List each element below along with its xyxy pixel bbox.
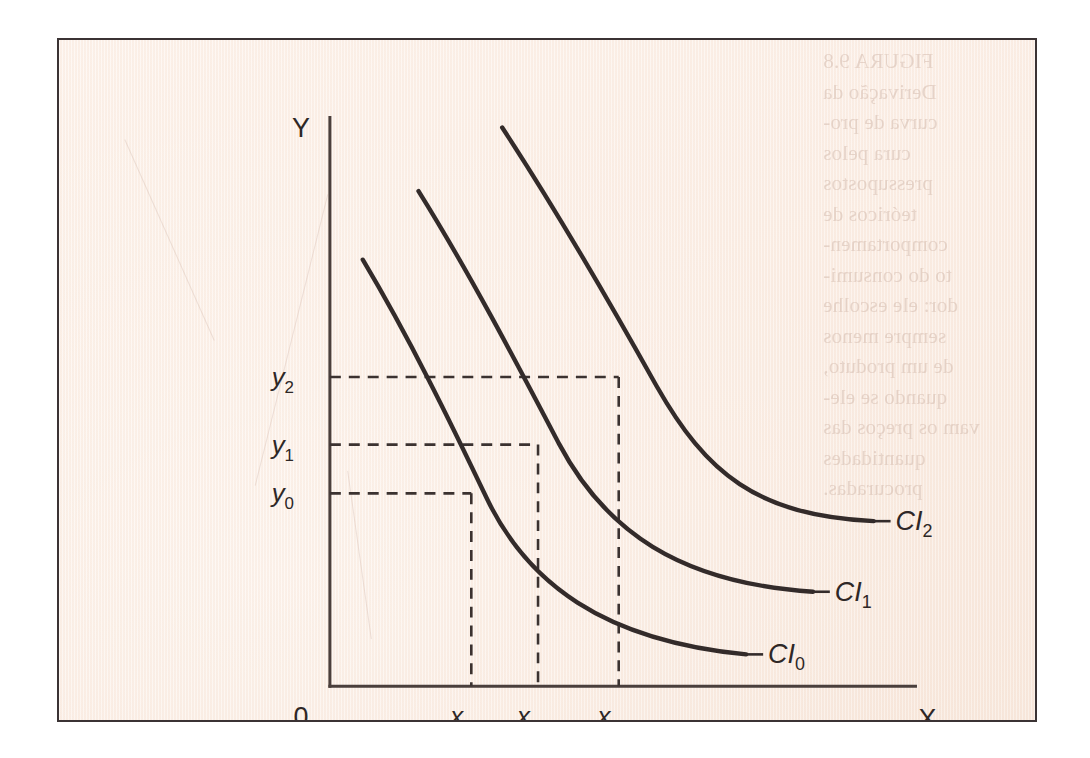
x-tick-label-x2-base: x [596,702,612,720]
curve-ci0 [363,260,746,655]
curve-label-ci0-sub: 0 [795,654,805,674]
curve-ci2 [502,127,873,521]
curve-label-ci0: CI0 [768,639,805,674]
y-tick-label-y1-sub: 1 [285,446,294,465]
curve-label-ci1: CI1 [835,577,872,612]
y-tick-label-y0: y0 [270,479,294,513]
curve-label-ci2: CI2 [896,506,933,541]
indifference-curve-plot: Y X 0 [59,40,1035,720]
x-axis-label: X [918,704,936,720]
origin-label: 0 [294,702,309,720]
x-tick-label-x1-sub: 1 [530,717,539,720]
curve-label-ci2-sub: 2 [922,521,932,541]
scanned-page-plate: FIGURA 9.8 Derivação da curva de pro- cu… [57,38,1037,722]
x-tick-label-x2-sub: 2 [611,717,620,720]
axes-group [330,118,916,687]
x-tick-label-x1: x1 [515,702,539,720]
y-tick-label-y0-sub: 0 [285,494,294,513]
curve-ci1 [419,191,813,592]
figure-root: FIGURA 9.8 Derivação da curva de pro- cu… [0,0,1090,758]
curve-label-ci2-base: CI [896,506,923,536]
x-tick-label-x1-base: x [515,702,531,720]
x-tick-label-x2: x2 [596,702,620,720]
x-tick-label-x0-sub: 0 [463,717,472,720]
y-tick-label-y2: y2 [270,363,294,397]
x-tick-label-x0-base: x [448,702,464,720]
curve-label-ci0-base: CI [768,639,795,669]
x-tick-labels-group: x0 x1 x2 [448,702,620,720]
curve-label-ci1-base: CI [835,577,862,607]
y-tick-label-y2-sub: 2 [285,378,294,397]
curve-label-ci1-sub: 1 [862,592,872,612]
x-tick-label-x0: x0 [448,702,472,720]
guide-lines-group [330,377,619,686]
y-axis-label: Y [292,113,310,143]
y-tick-label-y1: y1 [270,431,294,465]
y-tick-labels-group: y2 y1 y0 [270,363,294,513]
